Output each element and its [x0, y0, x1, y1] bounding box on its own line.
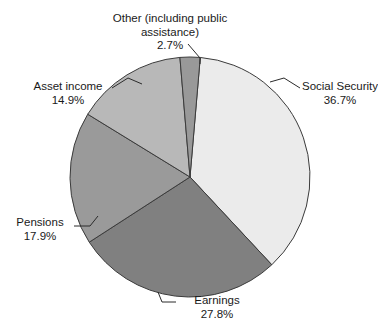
slice-label-other-line2: assistance) [96, 26, 244, 40]
slice-label-social-security-text: Social Security [302, 80, 378, 94]
slice-value-other: 2.7% [96, 39, 244, 53]
slice-label-pensions-text: Pensions [4, 216, 76, 230]
slice-value-social-security: 36.7% [302, 94, 378, 108]
pie-chart-figure: Other (including public assistance) 2.7%… [0, 0, 378, 336]
slice-value-pensions: 17.9% [4, 230, 76, 244]
leader-line-social-security [270, 78, 300, 88]
slice-label-social-security: Social Security 36.7% [302, 80, 378, 107]
slice-label-asset-income-text: Asset income [22, 80, 114, 94]
slice-label-other-line1: Other (including public [96, 12, 244, 26]
slice-label-pensions: Pensions 17.9% [4, 216, 76, 243]
slice-label-earnings: Earnings 27.8% [178, 294, 256, 321]
slice-label-asset-income: Asset income 14.9% [22, 80, 114, 107]
slice-label-other: Other (including public assistance) 2.7% [96, 12, 244, 53]
slice-value-asset-income: 14.9% [22, 94, 114, 108]
slice-label-earnings-text: Earnings [178, 294, 256, 308]
slice-value-earnings: 27.8% [178, 308, 256, 322]
